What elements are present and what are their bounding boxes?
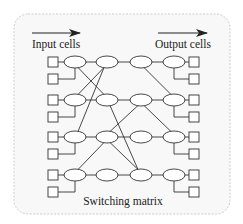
switch-node-r1-c1 [64,56,86,68]
input-cell [48,57,58,67]
switch-node-r2-c2 [96,94,118,106]
switch-node-r4-c4 [163,169,185,181]
switch-node-r1-c4 [163,56,185,68]
input-cell [48,149,58,159]
output-cell [189,57,199,67]
switching-matrix-label: Switching matrix [83,195,163,208]
switch-node-r3-c2 [96,131,118,143]
input-cell [48,112,58,122]
output-cell [189,170,199,180]
input-cell [48,132,58,142]
input-cell [48,95,58,105]
output-cell [189,132,199,142]
switch-node-r1-c3 [130,56,152,68]
switch-node-r2-c1 [64,94,86,106]
switch-node-r4-c3 [130,169,152,181]
switch-node-r2-c4 [163,94,185,106]
switch-node-r3-c1 [64,131,86,143]
output-cell [189,112,199,122]
output-cell [189,149,199,159]
input-cell [48,170,58,180]
switch-node-r1-c2 [96,56,118,68]
switch-node-r3-c3 [130,131,152,143]
switch-node-r4-c1 [64,169,86,181]
switch-node-r2-c3 [130,94,152,106]
output-cell [189,95,199,105]
switch-node-r4-c2 [96,169,118,181]
output-cell [189,187,199,197]
output-cells-label: Output cells [155,38,211,51]
switching-matrix-diagram: Input cells Output cells Switching matri… [0,0,243,224]
input-cells-label: Input cells [32,38,81,51]
switch-node-r3-c4 [163,131,185,143]
input-cell [48,74,58,84]
input-cell [48,187,58,197]
output-cell [189,74,199,84]
